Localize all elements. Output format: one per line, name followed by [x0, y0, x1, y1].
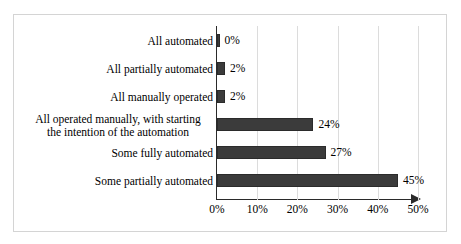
- x-tick-label-20pct: 20%: [277, 203, 317, 215]
- x-tick-label-40pct: 40%: [358, 203, 398, 215]
- x-axis-line: [216, 199, 413, 200]
- bar-row: All partially automated2%: [0, 58, 461, 86]
- x-tick-label-30pct: 30%: [318, 203, 358, 215]
- category-label: Some partially automated: [23, 175, 213, 188]
- category-label: All operated manually, with starting the…: [22, 113, 214, 138]
- x-tick-label-50pct: 50%: [398, 203, 438, 215]
- bar-value-label: 24%: [318, 118, 339, 131]
- bar-value-label: 27%: [331, 146, 352, 159]
- bar-value-label: 2%: [230, 90, 245, 103]
- bar-row: Some partially automated45%: [0, 170, 461, 198]
- bar[interactable]: [217, 174, 398, 187]
- bar-value-label: 0%: [225, 34, 240, 47]
- bar[interactable]: [217, 62, 225, 75]
- bar-row: All manually operated2%: [0, 86, 461, 114]
- bar-value-label: 2%: [230, 62, 245, 75]
- category-label: Some fully automated: [23, 147, 213, 160]
- bar-row: All automated0%: [0, 30, 461, 58]
- bar[interactable]: [217, 34, 220, 47]
- bar-value-label: 45%: [403, 174, 424, 187]
- category-label: All automated: [23, 35, 213, 48]
- category-label: All manually operated: [23, 91, 213, 104]
- bar[interactable]: [217, 146, 326, 159]
- bar[interactable]: [217, 118, 313, 131]
- bar-row: All operated manually, with starting the…: [0, 114, 461, 142]
- bar[interactable]: [217, 90, 225, 103]
- category-label: All partially automated: [23, 63, 213, 76]
- x-tick-label-10pct: 10%: [237, 203, 277, 215]
- bar-row: Some fully automated27%: [0, 142, 461, 170]
- bar-chart-plot-area: All automated0%All partially automated2%…: [0, 0, 461, 244]
- x-tick-label-0pct: 0%: [197, 203, 237, 215]
